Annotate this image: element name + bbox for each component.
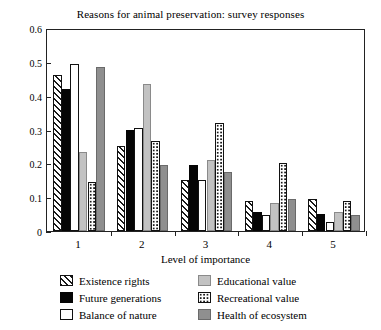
legend-swatch-icon — [198, 275, 211, 286]
legend-label: Existence rights — [79, 275, 150, 287]
legend-label: Health of ecosystem — [217, 309, 307, 321]
bar-2-6 — [160, 165, 169, 231]
bar-3-1 — [181, 180, 190, 231]
bar-2-1 — [117, 146, 126, 231]
x-tick-label: 3 — [203, 238, 209, 250]
legend-swatch-icon — [60, 275, 73, 286]
y-tick-mark — [46, 131, 51, 132]
chart-legend: Existence rightsEducational valueFuture … — [60, 272, 360, 323]
legend-label: Recreational value — [217, 292, 299, 304]
bar-4-4 — [270, 203, 279, 231]
bar-5-4 — [334, 212, 343, 231]
bar-chart: Reasons for animal preservation: survey … — [0, 0, 381, 330]
legend-item: Educational value — [198, 275, 348, 287]
x-tick-label: 5 — [330, 238, 336, 250]
legend-item: Recreational value — [198, 292, 348, 304]
bar-4-6 — [288, 199, 297, 231]
bar-4-2 — [253, 212, 262, 231]
y-tick-mark — [46, 29, 51, 30]
bar-3-5 — [215, 123, 224, 231]
x-tick-mark — [366, 231, 367, 236]
bar-5-6 — [351, 215, 360, 231]
legend-swatch-icon — [198, 292, 211, 303]
legend-item: Balance of nature — [60, 309, 198, 321]
bar-4-5 — [279, 163, 288, 231]
y-tick-label: 0.4 — [30, 91, 43, 102]
bar-1-5 — [88, 182, 97, 231]
y-tick-label: 0.6 — [30, 24, 43, 35]
x-tick-mark — [302, 231, 303, 236]
bar-2-3 — [134, 128, 143, 231]
legend-swatch-icon — [198, 309, 211, 320]
bar-3-2 — [189, 165, 198, 231]
y-tick-label: 0.2 — [30, 159, 43, 170]
y-tick-mark — [46, 63, 51, 64]
bar-5-5 — [343, 201, 352, 231]
chart-title: Reasons for animal preservation: survey … — [0, 8, 381, 20]
bar-3-3 — [198, 180, 207, 231]
y-tick-label: 0.3 — [30, 125, 43, 136]
legend-item: Health of ecosystem — [198, 309, 348, 321]
bar-1-1 — [53, 75, 62, 231]
y-tick-label: 0.1 — [30, 193, 43, 204]
x-tick-label: 2 — [139, 238, 145, 250]
bar-2-5 — [151, 141, 160, 231]
bar-4-3 — [262, 215, 271, 231]
legend-label: Educational value — [217, 275, 296, 287]
y-tick-mark — [46, 198, 51, 199]
bar-1-4 — [79, 152, 88, 232]
bar-1-6 — [96, 67, 105, 231]
bar-2-2 — [126, 130, 135, 232]
bar-5-2 — [317, 214, 326, 231]
legend-swatch-icon — [60, 309, 73, 320]
y-tick-mark — [46, 164, 51, 165]
bar-5-1 — [308, 199, 317, 231]
bar-3-4 — [207, 160, 216, 231]
legend-swatch-icon — [60, 292, 73, 303]
y-tick-label: 0 — [37, 227, 42, 238]
y-tick-mark — [46, 97, 51, 98]
y-tick-mark — [46, 232, 51, 233]
bar-2-4 — [143, 84, 152, 231]
x-axis-label: Level of importance — [46, 253, 365, 265]
bar-4-1 — [245, 201, 254, 231]
y-tick-label: 0.5 — [30, 57, 43, 68]
legend-label: Balance of nature — [79, 309, 157, 321]
bar-3-6 — [224, 172, 233, 231]
x-tick-mark — [175, 231, 176, 236]
legend-label: Future generations — [79, 292, 161, 304]
legend-item: Future generations — [60, 292, 198, 304]
bar-5-3 — [326, 222, 335, 231]
bar-1-3 — [70, 64, 79, 231]
x-tick-mark — [238, 231, 239, 236]
x-tick-label: 1 — [75, 238, 81, 250]
x-tick-label: 4 — [267, 238, 273, 250]
legend-item: Existence rights — [60, 275, 198, 287]
x-tick-mark — [111, 231, 112, 236]
bar-1-2 — [62, 89, 71, 231]
plot-area — [46, 29, 365, 232]
